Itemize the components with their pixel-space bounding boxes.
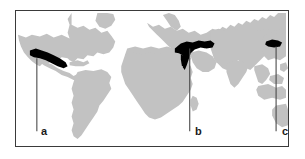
map-frame [15, 10, 289, 147]
land-indonesia [256, 84, 286, 100]
marker-label-c: c [282, 126, 288, 137]
marker-label-b: b [195, 126, 202, 137]
marker-label-a: a [41, 126, 47, 137]
world-map-figure: a b c [0, 0, 305, 159]
world-map-svg [16, 11, 288, 146]
